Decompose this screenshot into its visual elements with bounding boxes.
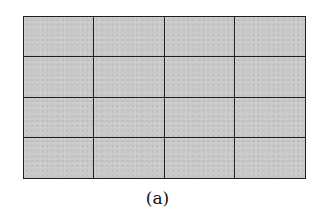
grid-cell-r2-c4 — [235, 57, 305, 97]
grid-cell-r3-c2 — [94, 98, 164, 138]
figure-caption: (a) — [0, 188, 315, 208]
grid-cell-r4-c4 — [235, 138, 305, 178]
grid-cell-r2-c1 — [24, 57, 94, 97]
grid-cell-r2-c2 — [94, 57, 164, 97]
rectangular-grid-diagram — [23, 16, 306, 179]
grid-cell-r4-c2 — [94, 138, 164, 178]
grid-cell-r2-c3 — [165, 57, 235, 97]
grid-cell-r1-c2 — [94, 17, 164, 57]
grid-cell-r3-c1 — [24, 98, 94, 138]
grid-cell-r3-c3 — [165, 98, 235, 138]
grid-cell-r1-c4 — [235, 17, 305, 57]
grid-cell-r3-c4 — [235, 98, 305, 138]
grid-cell-r1-c3 — [165, 17, 235, 57]
grid-cell-r4-c3 — [165, 138, 235, 178]
grid-cell-r1-c1 — [24, 17, 94, 57]
grid-cell-r4-c1 — [24, 138, 94, 178]
